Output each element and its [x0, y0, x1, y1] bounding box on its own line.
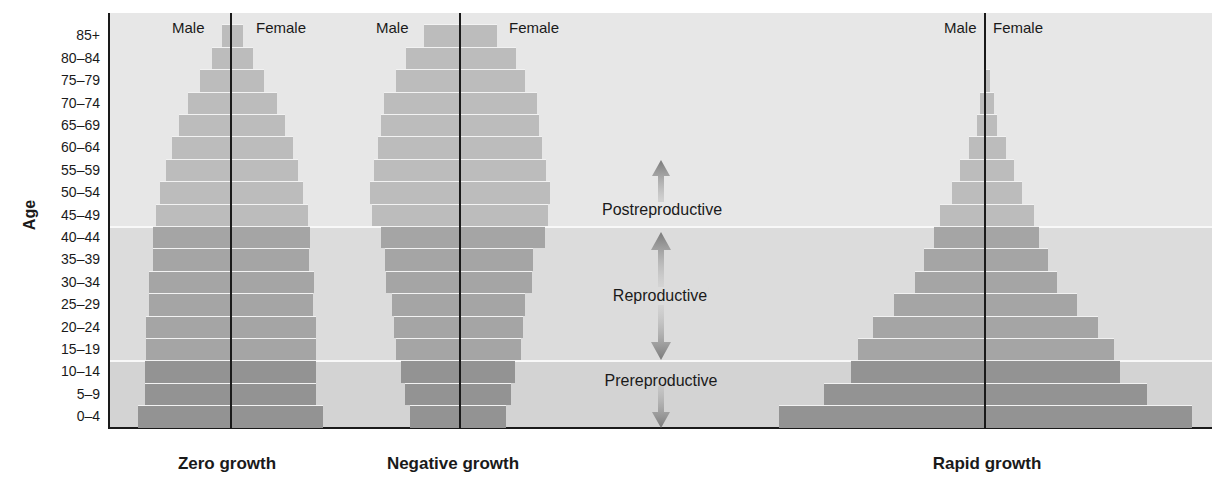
female-label: Female: [256, 19, 306, 36]
pyramid-title: Negative growth: [387, 454, 519, 474]
pyramid-bar: [915, 271, 1057, 293]
pyramid-bar: [960, 159, 1014, 181]
pyramid-bar: [172, 136, 293, 158]
y-tick-label: 25–29: [61, 296, 100, 312]
pyramid-bar: [934, 226, 1039, 248]
pyramid-title: Zero growth: [178, 454, 276, 474]
y-tick-label: 65–69: [61, 117, 100, 133]
pyramid-bar: [924, 248, 1048, 270]
pyramid-title: Rapid growth: [933, 454, 1042, 474]
male-label: Male: [172, 19, 205, 36]
y-tick-label: 85+: [76, 27, 100, 43]
y-tick-label: 35–39: [61, 251, 100, 267]
pyramid-bar: [952, 181, 1022, 203]
pyramid-bar: [212, 47, 253, 69]
figure-title-cropped: [0, 0, 1224, 6]
pyramid-bar: [405, 383, 511, 405]
pyramid-bar: [406, 47, 516, 69]
y-axis-label: Age: [21, 195, 39, 235]
stage-label-postreproductive: Postreproductive: [602, 201, 722, 219]
pyramid-bar: [940, 204, 1034, 226]
y-tick-label: 30–34: [61, 274, 100, 290]
y-tick-label: 75–79: [61, 72, 100, 88]
stage-label-reproductive: Reproductive: [611, 287, 709, 305]
y-tick-label: 80–84: [61, 50, 100, 66]
pyramid-bar: [156, 204, 308, 226]
pyramid-bar: [410, 405, 506, 427]
center-axis-line: [459, 13, 461, 429]
pyramid-bar: [858, 338, 1114, 360]
y-tick-label: 10–14: [61, 363, 100, 379]
pyramid-bar: [969, 136, 1006, 158]
female-label: Female: [509, 19, 559, 36]
y-tick-label: 70–74: [61, 95, 100, 111]
y-tick-label: 40–44: [61, 229, 100, 245]
y-tick-label: 50–54: [61, 184, 100, 200]
center-axis-line: [230, 13, 232, 429]
pyramid-bar: [166, 159, 298, 181]
male-label: Male: [944, 19, 977, 36]
pyramid-bar: [222, 24, 243, 46]
up-arrow-icon: [652, 160, 670, 202]
pyramid-bar: [200, 69, 264, 91]
y-tick-label: 60–64: [61, 139, 100, 155]
down-arrow-icon: [652, 386, 670, 428]
stage-label-prereproductive: Prereproductive: [605, 372, 718, 390]
y-tick-label: 15–19: [61, 341, 100, 357]
pyramid-bar: [188, 92, 277, 114]
pyramid-bar: [977, 114, 997, 136]
pyramid-bar: [179, 114, 285, 136]
y-tick-label: 5–9: [77, 386, 100, 402]
female-label: Female: [993, 19, 1043, 36]
pyramid-bar: [980, 92, 994, 114]
pyramid-bar: [401, 360, 515, 382]
y-tick-label: 55–59: [61, 162, 100, 178]
population-pyramids-figure: Age 85+80–8475–7970–7465–6960–6455–5950–…: [0, 0, 1224, 487]
male-label: Male: [376, 19, 409, 36]
pyramid-bar: [381, 226, 545, 248]
y-tick-label: 20–24: [61, 319, 100, 335]
center-axis-line: [984, 13, 986, 429]
y-tick-label: 0–4: [77, 408, 100, 424]
y-tick-label: 45–49: [61, 207, 100, 223]
